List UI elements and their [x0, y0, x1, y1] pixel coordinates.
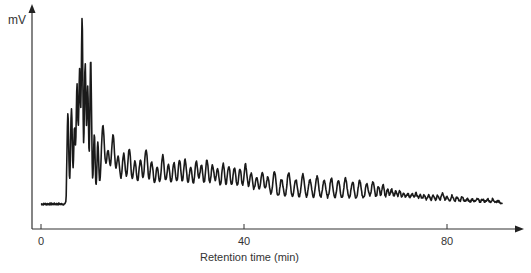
- chromatogram-chart: [0, 0, 531, 273]
- chromatogram-trace: [41, 19, 503, 205]
- y-axis: [29, 4, 36, 229]
- x-axis-label: Retention time (min): [200, 251, 299, 263]
- x-tick-label: 0: [38, 235, 44, 247]
- x-tick-label: 40: [238, 235, 250, 247]
- y-axis-arrow-icon: [29, 4, 36, 13]
- x-tick-label: 80: [441, 235, 453, 247]
- x-axis: [32, 224, 524, 233]
- x-axis-arrow-icon: [515, 226, 524, 233]
- y-axis-label: mV: [8, 13, 26, 27]
